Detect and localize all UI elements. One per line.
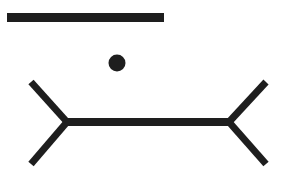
muller-lyer-figure	[0, 0, 284, 179]
right-fin-bottom	[229, 122, 266, 164]
bottom-arrow-figure	[31, 82, 266, 164]
fixation-dot	[109, 55, 126, 72]
left-fin-bottom	[31, 122, 67, 164]
right-fin-top	[229, 82, 266, 122]
left-fin-top	[31, 82, 67, 122]
